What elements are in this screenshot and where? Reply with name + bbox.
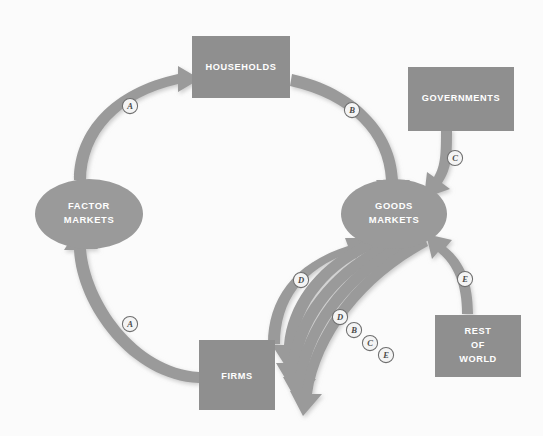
flow-badge-d-down-text: D [336, 312, 343, 322]
flow-badge-e-row[interactable]: E [457, 271, 472, 286]
flow-badge-a-top[interactable]: A [122, 98, 137, 113]
node-firms[interactable]: FIRMS [199, 340, 275, 410]
flow-badge-b-top-text: B [348, 105, 355, 115]
node-factor-markets[interactable]: FACTOR MARKETS [35, 179, 143, 249]
node-households-label: HOUSEHOLDS [206, 62, 277, 72]
flow-badge-e-down-text: E [382, 350, 389, 360]
node-households[interactable]: HOUSEHOLDS [192, 36, 290, 98]
flow-badge-c-down-text: C [367, 338, 373, 348]
node-rest-of-world-label-line1: REST [465, 326, 492, 336]
node-factor-markets-label-line1: FACTOR [68, 200, 110, 211]
node-rest-of-world-label-line2: OF [471, 340, 485, 350]
node-governments[interactable]: GOVERNMENTS [408, 67, 514, 131]
node-rest-of-world[interactable]: REST OF WORLD [435, 315, 521, 377]
flow-badge-e-down[interactable]: E [378, 347, 393, 362]
flow-badge-b-top[interactable]: B [344, 102, 359, 117]
flow-badge-c-down[interactable]: C [362, 335, 377, 350]
node-goods-markets-label-line2: MARKETS [369, 214, 420, 225]
circular-flow-diagram: HOUSEHOLDS GOVERNMENTS FACTOR MARKETS GO… [0, 0, 543, 436]
diagram-canvas: HOUSEHOLDS GOVERNMENTS FACTOR MARKETS GO… [0, 0, 543, 436]
flow-badge-b-down[interactable]: B [346, 322, 361, 337]
flow-badge-c-gov[interactable]: C [447, 150, 462, 165]
node-firms-label: FIRMS [221, 371, 253, 381]
flow-badge-a-bottom-text: A [126, 319, 133, 329]
flow-badge-d-up-text: D [297, 275, 304, 285]
node-goods-markets[interactable]: GOODS MARKETS [341, 179, 447, 249]
node-goods-markets-label-line1: GOODS [375, 200, 413, 211]
flow-badge-b-down-text: B [350, 325, 357, 335]
flow-badge-e-row-text: E [461, 274, 468, 284]
flow-badge-d-down[interactable]: D [332, 309, 347, 324]
flow-badge-a-bottom[interactable]: A [122, 316, 137, 331]
flow-badge-a-top-text: A [126, 101, 133, 111]
node-rest-of-world-label-line3: WORLD [459, 354, 497, 364]
node-factor-markets-label-line2: MARKETS [64, 214, 115, 225]
flow-badge-c-gov-text: C [452, 153, 458, 163]
node-governments-label: GOVERNMENTS [422, 93, 501, 103]
flow-badge-d-up[interactable]: D [293, 272, 308, 287]
